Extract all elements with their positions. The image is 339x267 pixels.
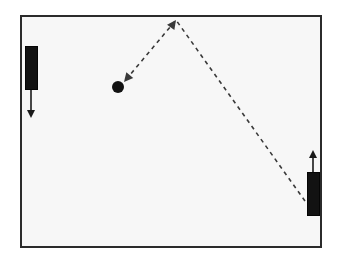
playfield-interior (22, 17, 320, 246)
ball (112, 81, 124, 93)
pong-diagram (0, 0, 339, 267)
left-paddle[interactable] (25, 46, 38, 90)
right-paddle[interactable] (307, 172, 320, 216)
playfield-border (20, 15, 322, 248)
